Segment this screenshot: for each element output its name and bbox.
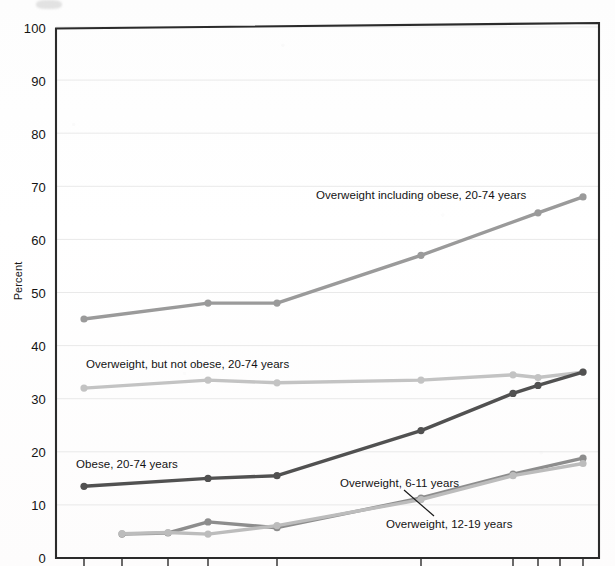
series-label-obese: Obese, 20-74 years	[76, 458, 178, 470]
series-label-overweight-6-11: Overweight, 6-11 years	[340, 477, 459, 489]
line-chart: Percent 100 90 80 70 60 50 40 30 20 10 0…	[0, 0, 615, 566]
plot-frame	[56, 23, 599, 558]
series-label-overweight-including-obese: Overweight including obese, 20-74 years	[316, 189, 526, 201]
series-0	[80, 193, 586, 322]
gridlines	[56, 27, 599, 505]
x-axis-ticks	[84, 558, 583, 566]
series-label-overweight-not-obese: Overweight, but not obese, 20-74 years	[86, 358, 289, 370]
plot-area	[0, 0, 615, 566]
series-label-overweight-12-19: Overweight, 12-19 years	[386, 518, 512, 530]
series-3	[118, 455, 586, 538]
series-1	[80, 369, 586, 392]
